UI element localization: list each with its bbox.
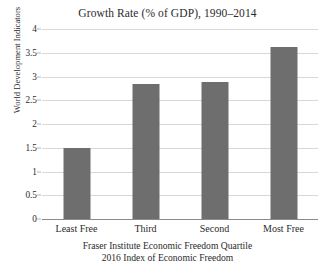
y-axis-tick-label: 0.5 xyxy=(25,190,37,200)
bar xyxy=(270,47,297,219)
y-axis-tick-label: 4 xyxy=(32,24,37,34)
y-axis-tick-label: 1.5 xyxy=(25,143,37,153)
bar xyxy=(201,82,228,219)
y-axis-tick-mark xyxy=(37,100,41,101)
bar-slot xyxy=(249,29,318,219)
y-axis-tick-mark xyxy=(37,219,41,220)
bars-group xyxy=(42,29,318,219)
x-axis-tick-label: Least Free xyxy=(56,223,98,234)
x-axis-baseline xyxy=(42,219,318,220)
bar-slot xyxy=(42,29,111,219)
x-axis-tick-label: Second xyxy=(200,223,229,234)
chart-title: Growth Rate (% of GDP), 1990–2014 xyxy=(0,7,335,19)
y-axis-tick-mark xyxy=(37,171,41,172)
plot-area: 00.511.522.533.54 xyxy=(42,29,318,219)
bar xyxy=(63,148,90,219)
y-axis-tick-label: 3 xyxy=(32,72,37,82)
x-axis-title: Fraser Institute Economic Freedom Quarti… xyxy=(0,240,335,251)
bar xyxy=(132,84,159,219)
y-axis-tick-label: 2.5 xyxy=(25,95,37,105)
y-axis-tick-label: 3.5 xyxy=(25,48,37,58)
y-axis-tick-label: 1 xyxy=(32,167,37,177)
bar-slot xyxy=(111,29,180,219)
y-axis-tick-label: 2 xyxy=(32,119,37,129)
y-axis-tick-mark xyxy=(37,147,41,148)
y-axis-title: World Development Indicators xyxy=(12,0,22,143)
bar-slot xyxy=(180,29,249,219)
y-axis-tick-label: 0 xyxy=(32,214,37,224)
bar-chart-figure: Growth Rate (% of GDP), 1990–2014 World … xyxy=(0,0,335,266)
y-axis-tick-mark xyxy=(37,29,41,30)
y-axis-tick-mark xyxy=(37,195,41,196)
y-axis-tick-mark xyxy=(37,124,41,125)
x-axis-subtitle: 2016 Index of Economic Freedom xyxy=(0,252,335,263)
y-axis-tick-mark xyxy=(37,52,41,53)
x-axis-tick-label: Third xyxy=(134,223,156,234)
x-axis-tick-labels: Least FreeThirdSecondMost Free xyxy=(42,223,318,239)
y-axis-tick-mark xyxy=(37,76,41,77)
x-axis-tick-label: Most Free xyxy=(263,223,304,234)
